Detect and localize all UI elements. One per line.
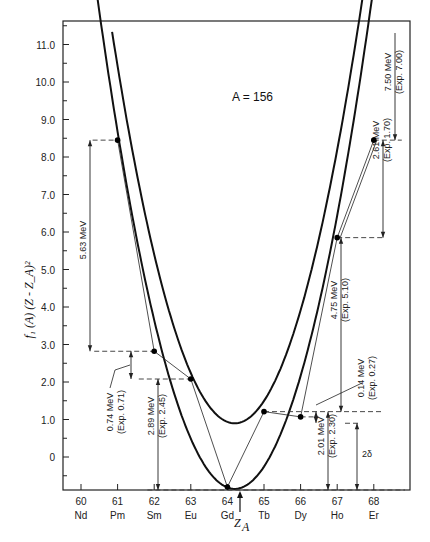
y-tick-label: 7.0 — [41, 190, 55, 201]
arrowhead-icon — [156, 379, 160, 385]
y-tick-label: 1.0 — [41, 415, 55, 426]
x-tick-label: 68 — [368, 496, 380, 507]
decay-line — [264, 412, 301, 417]
point-ho — [334, 235, 340, 241]
level-dashes — [93, 140, 405, 490]
svg-text:f₁ (A) (Z - Z_A)²: f₁ (A) (Z - Z_A)² — [22, 261, 36, 338]
annotation-value: 0.74 MeV — [105, 393, 115, 432]
x-tick-label: 67 — [332, 496, 344, 507]
y-tick-label: 8.0 — [41, 152, 55, 163]
element-label: Sm — [147, 510, 162, 521]
annotation-2.01: 2.01 MeV(Exp. 2.30) — [316, 414, 337, 458]
x-tick-label: 62 — [149, 496, 161, 507]
z-a-arrowhead-icon — [237, 491, 243, 498]
arrowhead-icon — [88, 345, 92, 351]
annotation-value: 2.01 MeV — [316, 417, 326, 456]
arrowhead-icon — [326, 484, 330, 490]
y-tick-label: 11.0 — [36, 40, 55, 51]
annotation-7.50: 7.50 MeV(Exp. 7.00) — [383, 50, 404, 94]
arrowhead-icon — [339, 406, 343, 412]
point-er — [371, 137, 377, 143]
element-label: Pm — [110, 510, 125, 521]
y-tick-label: 5.0 — [41, 265, 55, 276]
annotation-exp: (Exp. 7.00) — [394, 50, 404, 94]
x-tick-label: 60 — [75, 496, 87, 507]
point-eu — [188, 376, 194, 382]
annotation-exp: (Exp. 2.30) — [327, 414, 337, 458]
annotation-exp: (Exp. 0.27) — [367, 356, 377, 400]
point-pm — [115, 137, 121, 143]
element-label: Nd — [75, 510, 88, 521]
x-tick-label: 64 — [222, 496, 234, 507]
annotation-0.74: 0.74 MeV(Exp. 0.71) — [105, 390, 126, 434]
y-tick-label: 10.0 — [36, 77, 56, 88]
mass-parabola-chart: 01.02.03.04.05.06.07.08.09.010.011.0 60N… — [0, 0, 430, 542]
arrowhead-icon — [393, 134, 397, 140]
leader-0.74 — [110, 365, 130, 388]
annotation-exp: (Exp. 0.71) — [116, 390, 126, 434]
annotation-value: 5.63 MeV — [78, 221, 88, 260]
x-tick-label: 61 — [112, 496, 124, 507]
arrowhead-icon — [88, 140, 92, 146]
annotation-exp: (Exp. 2.45) — [157, 394, 167, 438]
annotation-value: 7.50 MeV — [383, 53, 393, 92]
arrowhead-icon — [314, 412, 318, 418]
x-tick-label: 63 — [185, 496, 197, 507]
decay-line — [301, 238, 338, 417]
decay-line — [154, 351, 191, 379]
x-tick-label: 65 — [258, 496, 270, 507]
y-tick-label: 4.0 — [41, 302, 55, 313]
annotation-value: 4.75 MeV — [329, 281, 339, 320]
x-axis-label: Z A — [234, 491, 250, 534]
element-label: Er — [369, 510, 380, 521]
annotation-4.75: 4.75 MeV(Exp. 5.10) — [329, 278, 350, 322]
arrowhead-icon — [129, 351, 133, 357]
y-tick-label: 6.0 — [41, 227, 55, 238]
element-label: Gd — [221, 510, 234, 521]
element-label: Dy — [294, 510, 306, 521]
arrowhead-icon — [381, 232, 385, 238]
point-sm — [151, 348, 157, 354]
y-tick-label: 0 — [49, 452, 55, 463]
arrowhead-icon — [129, 373, 133, 379]
point-tb — [261, 409, 267, 415]
annotation-exp: (Exp. 1.70) — [382, 118, 392, 162]
point-gd — [225, 484, 231, 490]
annotation-value: 0.14 MeV — [356, 359, 366, 398]
svg-text:Z: Z — [234, 516, 241, 530]
y-axis-label: f₁ (A) (Z - Z_A)² — [22, 261, 36, 338]
chart-title: A = 156 — [232, 90, 273, 104]
annotation-0.14: 0.14 MeV(Exp. 0.27) — [356, 356, 377, 400]
svg-text:A: A — [241, 520, 250, 534]
point-dy — [298, 414, 304, 420]
arrowhead-icon — [355, 423, 359, 429]
arrowhead-icon — [156, 484, 160, 490]
arrowhead-icon — [355, 484, 359, 490]
annotation-2.89: 2.89 MeV(Exp. 2.45) — [146, 394, 167, 438]
y-tick-label: 3.0 — [41, 340, 55, 351]
element-label: Eu — [185, 510, 197, 521]
element-label: Ho — [331, 510, 344, 521]
element-label: Tb — [258, 510, 270, 521]
annotation-5.63: 5.63 MeV — [78, 221, 88, 260]
annotation-exp: (Exp. 5.10) — [340, 278, 350, 322]
y-tick-label: 2.0 — [41, 377, 55, 388]
annotation-value: 2.89 MeV — [146, 397, 156, 436]
x-tick-label: 66 — [295, 496, 307, 507]
y-tick-label: 9.0 — [41, 115, 55, 126]
annotation-2delta: 2δ — [362, 449, 372, 459]
y-axis-ticks: 01.02.03.04.05.06.07.08.09.010.011.0 — [36, 26, 69, 476]
